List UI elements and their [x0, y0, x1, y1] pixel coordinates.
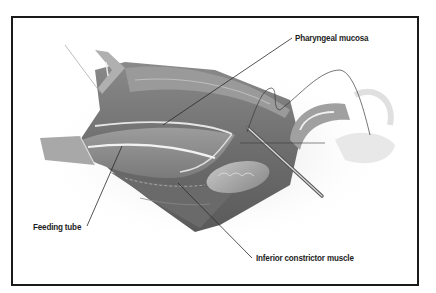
label-pharyngeal-mucosa: Pharyngeal mucosa — [295, 32, 368, 43]
label-inferior-constrictor-muscle: Inferior constrictor muscle — [256, 252, 354, 263]
surgical-illustration — [0, 0, 436, 293]
label-feeding-tube: Feeding tube — [33, 221, 81, 232]
